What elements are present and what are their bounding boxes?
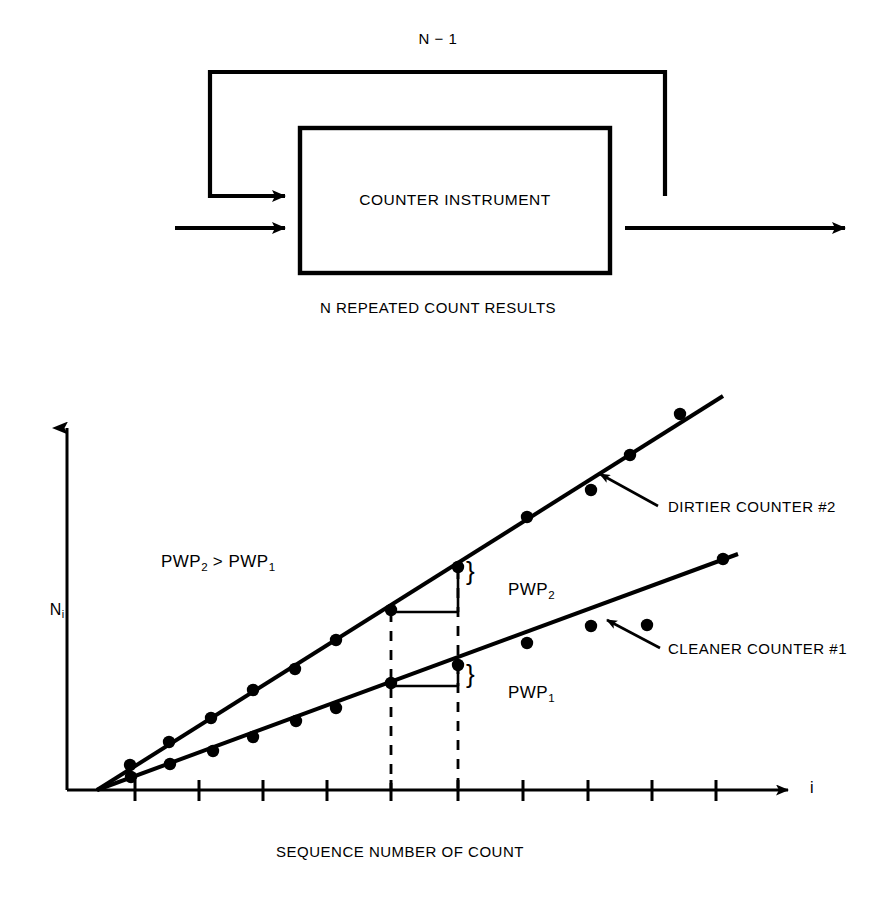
y-axis-label-subscript: i <box>62 608 64 620</box>
counter-instrument-label: COUNTER INSTRUMENT <box>359 191 551 209</box>
feedback-count-label: N − 1 <box>419 30 458 47</box>
x-axis-caption: SEQUENCE NUMBER OF COUNT <box>276 843 524 860</box>
series2-leader-line <box>600 474 658 506</box>
pwp1-label: PWP1 <box>487 663 555 724</box>
inequality-operator: > PWP <box>208 552 269 571</box>
pwp2-label: PWP2 <box>487 560 555 621</box>
pwp2-label-main: PWP <box>508 580 548 599</box>
pwp1-label-main: PWP <box>508 683 548 702</box>
y-axis-label-main: N <box>50 601 62 618</box>
inequality-right-subscript: 1 <box>269 561 275 573</box>
figure-vector-layer <box>0 0 876 897</box>
pwp2-label-subscript: 2 <box>548 589 554 601</box>
pwp1-label-subscript: 1 <box>548 692 554 704</box>
block-diagram-caption: N REPEATED COUNT RESULTS <box>320 299 556 316</box>
y-axis-label: Ni <box>30 583 64 638</box>
inequality-left-term: PWP <box>161 552 201 571</box>
series1-annotation-label: CLEANER COUNTER #1 <box>668 640 847 657</box>
pwp-inequality: PWP2 > PWP1 <box>140 532 275 593</box>
x-axis-label: i <box>810 779 814 797</box>
pwp2-brace: } <box>466 558 475 584</box>
series2-annotation-label: DIRTIER COUNTER #2 <box>668 498 836 515</box>
pwp1-brace: } <box>466 661 475 687</box>
block-diagram-group <box>175 72 845 273</box>
figure-page: N − 1 COUNTER INSTRUMENT N REPEATED COUN… <box>0 0 876 897</box>
plot-axes-group <box>67 428 788 801</box>
